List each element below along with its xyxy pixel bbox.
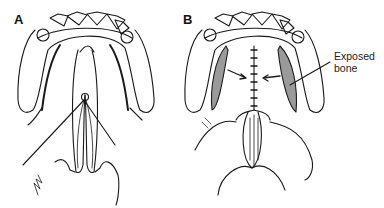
panel-a-drawing: [18, 12, 154, 205]
figure: A B Exposed bone: [0, 0, 384, 208]
panel-b-drawing: [185, 12, 330, 195]
palate-illustration: [0, 0, 384, 208]
